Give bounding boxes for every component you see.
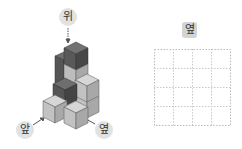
cube-structure	[0, 0, 130, 149]
cube-bottom-right	[64, 101, 88, 129]
cube-bottom-left	[43, 95, 67, 123]
answer-grid[interactable]	[154, 49, 231, 126]
answer-grid-label: 옆	[182, 22, 197, 38]
